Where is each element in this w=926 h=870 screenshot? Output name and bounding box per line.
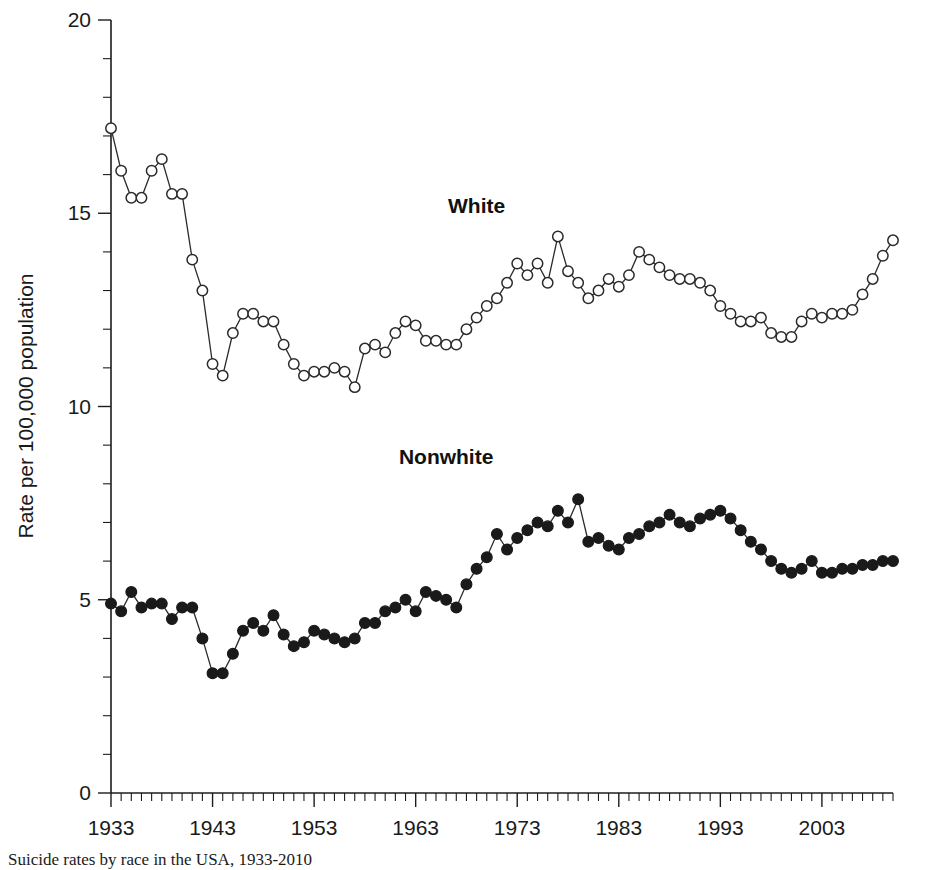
data-point	[837, 563, 848, 574]
x-tick-label: 1963	[392, 816, 439, 839]
data-point	[309, 367, 319, 377]
data-point	[360, 618, 371, 629]
data-point	[817, 567, 828, 578]
data-point	[563, 517, 574, 528]
data-point	[745, 536, 756, 547]
data-point	[126, 193, 136, 203]
data-point	[451, 339, 461, 349]
data-point	[847, 563, 858, 574]
y-tick-label: 5	[79, 588, 91, 611]
data-point	[370, 618, 381, 629]
data-point	[593, 285, 603, 295]
data-point	[339, 367, 349, 377]
series-annotations: WhiteNonwhite	[399, 194, 505, 468]
data-point	[664, 509, 675, 520]
data-point	[613, 544, 624, 555]
data-point	[624, 533, 635, 544]
x-tick-label: 1943	[189, 816, 236, 839]
data-point	[573, 278, 583, 288]
data-point	[481, 552, 492, 563]
data-point	[106, 123, 116, 133]
data-point	[187, 602, 198, 613]
data-point	[756, 544, 767, 555]
data-point	[319, 629, 330, 640]
data-point	[583, 293, 593, 303]
x-tick-label: 2003	[799, 816, 846, 839]
series-nonwhite	[106, 494, 899, 679]
series-line	[111, 128, 893, 387]
data-point	[289, 359, 299, 369]
data-point	[400, 316, 410, 326]
data-point	[471, 312, 481, 322]
data-point	[817, 312, 827, 322]
y-axis-title: Rate per 100,000 population	[14, 273, 37, 538]
data-point	[228, 328, 238, 338]
axis-tick-labels: 0510152019331943195319631973198319932003	[68, 8, 846, 839]
data-point	[167, 614, 178, 625]
data-point	[512, 258, 522, 268]
data-point	[380, 606, 391, 617]
data-point	[796, 316, 806, 326]
data-point	[278, 629, 289, 640]
data-point	[258, 625, 269, 636]
data-point	[227, 648, 238, 659]
data-point	[106, 598, 117, 609]
data-point	[725, 309, 735, 319]
data-point	[685, 274, 695, 284]
data-point	[867, 274, 877, 284]
data-point	[766, 328, 776, 338]
data-point	[390, 328, 400, 338]
data-point	[431, 590, 442, 601]
data-point	[522, 270, 532, 280]
data-point	[888, 556, 899, 567]
data-point	[441, 339, 451, 349]
data-point	[857, 289, 867, 299]
data-point	[664, 270, 674, 280]
data-point	[441, 594, 452, 605]
data-point	[329, 633, 340, 644]
data-point	[299, 637, 310, 648]
x-tick-label: 1933	[88, 816, 135, 839]
data-point	[746, 316, 756, 326]
data-point	[207, 359, 217, 369]
data-point	[197, 285, 207, 295]
data-point	[807, 309, 817, 319]
data-point	[552, 505, 563, 516]
data-point	[461, 579, 472, 590]
data-point	[644, 254, 654, 264]
data-point	[268, 316, 278, 326]
data-point	[217, 668, 228, 679]
data-point	[827, 567, 838, 578]
data-point	[187, 254, 197, 264]
data-point	[786, 332, 796, 342]
data-point	[634, 247, 644, 257]
data-point	[725, 513, 736, 524]
data-point	[492, 293, 502, 303]
data-point	[674, 517, 685, 528]
data-point	[654, 262, 664, 272]
data-point	[339, 637, 350, 648]
data-point	[218, 370, 228, 380]
data-point	[288, 641, 299, 652]
data-point	[420, 587, 431, 598]
data-point	[207, 668, 218, 679]
series-white	[106, 123, 898, 392]
data-point	[146, 166, 156, 176]
data-point	[431, 336, 441, 346]
data-point	[238, 625, 249, 636]
data-point	[136, 193, 146, 203]
data-point	[634, 529, 645, 540]
data-point	[329, 363, 339, 373]
data-point	[614, 281, 624, 291]
data-point	[675, 274, 685, 284]
data-point	[766, 556, 777, 567]
data-point	[847, 305, 857, 315]
data-point	[360, 343, 370, 353]
data-point	[248, 309, 258, 319]
data-point	[451, 602, 462, 613]
data-point	[400, 594, 411, 605]
data-point	[593, 533, 604, 544]
data-point	[888, 235, 898, 245]
x-tick-label: 1983	[595, 816, 642, 839]
data-point	[715, 505, 726, 516]
